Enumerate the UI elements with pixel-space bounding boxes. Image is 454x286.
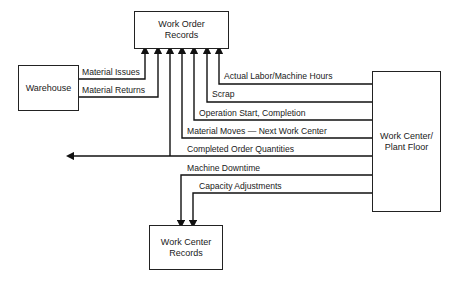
work-center-records-box: Work Center Records — [149, 225, 223, 270]
work-center-records-label-1: Work Center — [161, 237, 211, 248]
flow-label-actual-labor: Actual Labor/Machine Hours — [224, 71, 332, 81]
flow-label-operation-start: Operation Start, Completion — [199, 108, 306, 118]
work-order-records-box: Work Order Records — [134, 11, 229, 49]
warehouse-box: Warehouse — [18, 65, 79, 111]
plant-floor-label-1: Work Center/ — [380, 131, 433, 142]
flow-label-machine-downtime: Machine Downtime — [187, 163, 260, 173]
flow-label-material-moves: Material Moves — Next Work Center — [187, 126, 327, 136]
flow-label-material-returns: Material Returns — [82, 85, 145, 95]
flow-label-capacity-adjustments: Capacity Adjustments — [199, 181, 282, 191]
flow-label-completed-order: Completed Order Quantities — [187, 144, 294, 154]
plant-floor-label-2: Plant Floor — [380, 142, 433, 153]
work-order-records-label-1: Work Order — [158, 19, 204, 30]
flow-label-scrap: Scrap — [212, 89, 234, 99]
work-center-plant-floor-box: Work Center/ Plant Floor — [372, 71, 441, 212]
warehouse-label: Warehouse — [26, 83, 72, 94]
work-center-records-label-2: Records — [161, 248, 211, 259]
work-order-records-label-2: Records — [158, 30, 204, 41]
flow-label-material-issues: Material Issues — [82, 67, 140, 77]
